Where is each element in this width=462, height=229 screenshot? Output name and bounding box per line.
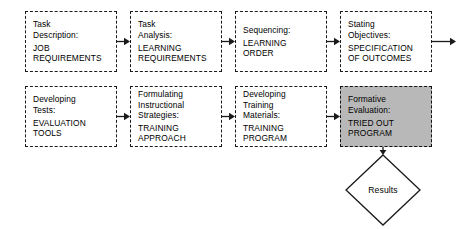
node-title-line: Training	[243, 100, 322, 110]
developing-training-materials-box: DevelopingTrainingMaterials:TRAININGPROG…	[235, 86, 327, 147]
node-title-line: Materials:	[243, 110, 322, 120]
arrow-developing-tests-to-formulating-strategies	[117, 112, 130, 121]
node-output-line: PROGRAM	[243, 133, 322, 143]
node-output-line: REQUIREMENTS	[138, 53, 217, 63]
node-title-line: Formulating	[138, 89, 217, 99]
arrow-task-analysis-to-sequencing	[222, 37, 235, 46]
node-output-line: TOOLS	[33, 128, 112, 138]
results-diamond: Results	[345, 154, 421, 226]
node-title-line: Task	[138, 19, 217, 29]
formative-evaluation-box: FormativeEvaluation:TRIED OUTPROGRAM	[340, 86, 432, 147]
developing-tests-box: DevelopingTests:EVALUATIONTOOLS	[25, 86, 117, 147]
node-title-line: Tests:	[33, 105, 112, 115]
node-output-line: OF OUTCOMES	[348, 53, 427, 63]
node-output-line: JOB	[33, 43, 112, 53]
node-title-line: Analysis:	[138, 30, 217, 40]
node-output-line: TRAINING	[243, 123, 322, 133]
node-output-line: LEARNING	[138, 43, 217, 53]
arrow-task-description-to-task-analysis	[117, 37, 130, 46]
arrow-stating-objectives-to-next-phase	[432, 37, 456, 46]
node-output-line: REQUIREMENTS	[33, 53, 112, 63]
task-analysis-box: TaskAnalysis:LEARNINGREQUIREMENTS	[130, 11, 222, 72]
results-label: Results	[345, 185, 421, 195]
node-title-line: Developing	[243, 89, 322, 99]
node-title-line: Instructional	[138, 100, 217, 110]
node-output-line: TRIED OUT	[348, 118, 427, 128]
node-title-line: Developing	[33, 94, 112, 104]
node-output-line: LEARNING	[243, 38, 322, 48]
node-title-line: Stating	[348, 19, 427, 29]
node-title-line: Formative	[348, 94, 427, 104]
node-title-line: Evaluation:	[348, 105, 427, 115]
node-title-line: Strategies:	[138, 110, 217, 120]
task-description-box: TaskDescription:JOBREQUIREMENTS	[25, 11, 117, 72]
arrow-formulating-strategies-to-developing-materials	[222, 112, 235, 121]
node-output-line: PROGRAM	[348, 128, 427, 138]
node-title-line: Task	[33, 19, 112, 29]
node-output-line: TRAINING	[138, 123, 217, 133]
node-title-line: Objectives:	[348, 30, 427, 40]
node-output-line: ORDER	[243, 48, 322, 58]
arrow-sequencing-to-stating-objectives	[327, 37, 340, 46]
node-output-line: APPROACH	[138, 133, 217, 143]
flowchart-canvas: TaskDescription:JOBREQUIREMENTSTaskAnaly…	[0, 0, 462, 229]
node-title-line: Description:	[33, 30, 112, 40]
sequencing-box: Sequencing:LEARNINGORDER	[235, 11, 327, 72]
arrow-developing-materials-to-formative-evaluation	[327, 112, 340, 121]
node-title-line: Sequencing:	[243, 25, 322, 35]
node-output-line: EVALUATION	[33, 118, 112, 128]
formulating-instructional-strategies-box: FormulatingInstructionalStrategies:TRAIN…	[130, 86, 222, 147]
stating-objectives-box: StatingObjectives:SPECIFICATIONOF OUTCOM…	[340, 11, 432, 72]
node-output-line: SPECIFICATION	[348, 43, 427, 53]
